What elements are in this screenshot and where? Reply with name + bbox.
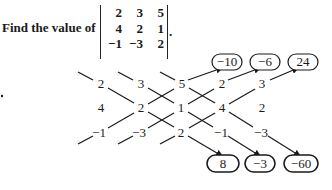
grid-cell: 3 [138,76,145,91]
grid-cell: 1 [178,100,185,115]
grid-cell: 2 [178,125,185,140]
bottom-product: 8 [220,156,227,171]
top-products: −10 −6 24 [212,54,318,70]
number-grid: 2 3 5 2 3 4 2 1 4 2 −1 −3 2 −1 −3 [92,76,268,140]
sarrus-diagram: 2 3 5 2 3 4 2 1 4 2 −1 −3 2 −1 −3 −10 −6… [0,0,332,190]
grid-cell: −1 [92,125,106,140]
bottom-products: 8 −3 −60 [207,155,318,172]
top-product: −6 [258,54,272,69]
down-diagonals [78,72,300,156]
grid-cell: 3 [259,76,266,91]
grid-cell: −1 [214,125,228,140]
grid-cell: 2 [219,76,226,91]
grid-cell: 4 [98,100,105,115]
grid-cell: 2 [98,76,105,91]
grid-cell: 2 [138,100,145,115]
grid-cell: −3 [254,125,268,140]
grid-cell: −3 [132,125,146,140]
top-product: 24 [297,54,311,69]
bottom-product: −3 [253,156,267,171]
top-product: −10 [217,54,237,69]
grid-cell: 5 [179,76,186,91]
grid-cell: 4 [219,100,226,115]
dot [1,95,3,97]
grid-cell: 2 [259,100,266,115]
bottom-product: −60 [291,156,311,171]
